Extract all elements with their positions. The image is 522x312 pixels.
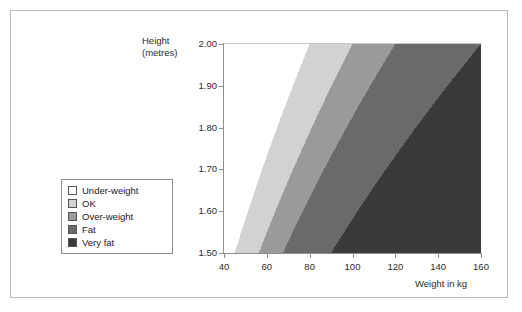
legend-swatch-icon — [68, 199, 77, 208]
x-tick-label-5: 140 — [423, 261, 453, 272]
plot-area — [224, 44, 481, 253]
x-tick-mark-4 — [395, 254, 396, 258]
x-tick-mark-5 — [438, 254, 439, 258]
y-tick-label-1: 1.60 — [191, 206, 217, 216]
legend-swatch-icon — [68, 238, 77, 247]
legend-item-label: Under-weight — [82, 185, 139, 196]
x-tick-mark-0 — [224, 254, 225, 258]
x-tick-label-3: 100 — [338, 261, 368, 272]
x-tick-label-0: 40 — [209, 261, 239, 272]
y-tick-label-2: 1.70 — [191, 164, 217, 174]
legend-item-label: Over-weight — [82, 211, 133, 222]
legend-item: Very fat — [68, 236, 167, 249]
x-tick-mark-2 — [310, 254, 311, 258]
x-tick-label-6: 160 — [466, 261, 496, 272]
y-tick-label-4: 1.90 — [191, 81, 217, 91]
legend-item-label: Fat — [82, 224, 96, 235]
x-tick-mark-1 — [267, 254, 268, 258]
legend-item: Over-weight — [68, 210, 167, 223]
y-axis-title-line2: (metres) — [142, 47, 177, 58]
legend-item-label: OK — [82, 198, 96, 209]
y-tick-label-0: 1.50 — [191, 248, 217, 258]
x-tick-mark-3 — [353, 254, 354, 258]
legend-item: OK — [68, 197, 167, 210]
legend-item: Fat — [68, 223, 167, 236]
bmi-band-chart — [224, 44, 481, 253]
legend-swatch-icon — [68, 212, 77, 221]
y-axis-tick-labels: 1.501.601.701.801.902.00 — [189, 11, 217, 297]
x-tick-label-2: 80 — [295, 261, 325, 272]
x-tick-mark-6 — [481, 254, 482, 258]
legend-swatch-icon — [68, 186, 77, 195]
figure-frame: Height(metres) 1.501.601.701.801.902.00 … — [10, 10, 508, 298]
y-axis-title-line1: Height — [142, 35, 169, 46]
x-tick-label-4: 120 — [380, 261, 410, 272]
legend-swatch-icon — [68, 225, 77, 234]
y-axis-title: Height(metres) — [142, 35, 177, 59]
y-tick-label-3: 1.80 — [191, 123, 217, 133]
x-tick-label-1: 60 — [252, 261, 282, 272]
legend-item: Under-weight — [68, 184, 167, 197]
legend: Under-weightOKOver-weightFatVery fat — [61, 179, 173, 254]
x-axis-title: Weight in kg — [415, 278, 467, 289]
legend-item-label: Very fat — [82, 237, 114, 248]
y-tick-label-5: 2.00 — [191, 39, 217, 49]
